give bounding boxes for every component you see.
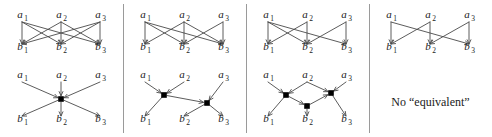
svg-text:a: a (17, 68, 23, 80)
svg-text:3: 3 (225, 14, 229, 23)
svg-text:b: b (95, 112, 101, 124)
svg-text:1: 1 (393, 46, 397, 55)
vertex-label-a1: a1 (386, 8, 397, 23)
svg-text:b: b (140, 40, 146, 52)
vertex-label-b2: b2 (56, 40, 67, 55)
vertex-label-b1: b1 (140, 40, 151, 55)
three-hub-network-canvas: a1b1a2b2a3b3 (246, 68, 369, 137)
complete-bipartite-graph-canvas: a1b1a2b2a3b3 (0, 0, 123, 68)
bipartite-graph-eight-edges-canvas: a1b1a2b2a3b3 (123, 0, 246, 68)
svg-text:3: 3 (348, 118, 352, 127)
svg-text:3: 3 (348, 14, 352, 23)
svg-text:3: 3 (471, 14, 475, 23)
panel-divider-2 (246, 4, 247, 133)
svg-text:2: 2 (432, 46, 436, 55)
svg-text:3: 3 (102, 14, 106, 23)
svg-text:2: 2 (309, 14, 313, 23)
panel-column-2: a1b1a2b2a3b3a1b1a2b2a3b3 (123, 0, 246, 137)
vertex-label-b3: b3 (218, 40, 229, 55)
edge-hub1-b1 (268, 97, 284, 116)
bipartite-graph-six-edges-canvas: a1b1a2b2a3b3 (246, 0, 369, 68)
svg-text:3: 3 (348, 46, 352, 55)
vertex-label-b2: b2 (425, 40, 436, 55)
edge-a3-b2 (430, 22, 469, 44)
vertex-label-b2: b2 (179, 112, 190, 127)
hub-node-3 (328, 90, 334, 96)
edge-a1-hub1 (145, 82, 161, 93)
svg-text:a: a (464, 8, 470, 20)
svg-text:1: 1 (24, 46, 28, 55)
single-hub-network: a1b1a2b2a3b3 (0, 68, 123, 137)
svg-text:b: b (464, 40, 470, 52)
svg-text:a: a (425, 8, 431, 20)
hub-node-2 (204, 100, 210, 106)
svg-text:1: 1 (147, 74, 151, 83)
panel-column-4: a1b1a2b2a3b3No “equivalent” (369, 0, 492, 137)
svg-text:b: b (263, 40, 269, 52)
svg-text:b: b (425, 40, 431, 52)
svg-text:3: 3 (348, 74, 352, 83)
vertex-label-a1: a1 (140, 68, 151, 83)
svg-text:1: 1 (393, 14, 397, 23)
vertex-label-a2: a2 (179, 8, 190, 23)
svg-text:2: 2 (309, 74, 313, 83)
svg-text:2: 2 (309, 118, 313, 127)
single-hub-network-canvas: a1b1a2b2a3b3 (0, 68, 123, 137)
svg-text:a: a (56, 68, 62, 80)
edge-a3-hub3 (334, 82, 346, 91)
edge-a2-b1 (391, 22, 430, 44)
svg-text:b: b (17, 40, 23, 52)
svg-text:1: 1 (270, 14, 274, 23)
vertex-label-b2: b2 (56, 112, 67, 127)
edge-a1-hub1 (268, 82, 283, 93)
svg-text:a: a (218, 8, 224, 20)
figure-root: a1b1a2b2a3b3a1b1a2b2a3b3a1b1a2b2a3b3a1b1… (0, 0, 492, 137)
edge-a2-hub1 (59, 82, 63, 96)
svg-text:b: b (302, 40, 308, 52)
svg-text:1: 1 (147, 118, 151, 127)
svg-text:a: a (17, 8, 23, 20)
vertex-label-b3: b3 (341, 112, 352, 127)
vertex-label-a3: a3 (218, 8, 229, 23)
vertex-label-a3: a3 (341, 68, 352, 83)
hub-node-2 (304, 103, 310, 109)
svg-text:b: b (56, 40, 62, 52)
svg-text:b: b (56, 112, 62, 124)
svg-text:3: 3 (225, 118, 229, 127)
svg-text:2: 2 (63, 14, 67, 23)
vertex-label-b3: b3 (464, 40, 475, 55)
panel-column-3: a1b1a2b2a3b3a1b1a2b2a3b3 (246, 0, 369, 137)
panel-divider-3 (369, 4, 370, 133)
svg-text:2: 2 (63, 118, 67, 127)
svg-text:a: a (386, 8, 392, 20)
svg-text:b: b (386, 40, 392, 52)
hub-link-1-2 (167, 96, 203, 104)
no-equivalent-text: No “equivalent” (391, 95, 469, 110)
vertex-label-a3: a3 (95, 68, 106, 83)
svg-text:3: 3 (102, 118, 106, 127)
vertex-label-b3: b3 (95, 40, 106, 55)
bipartite-graph-six-edges: a1b1a2b2a3b3 (246, 0, 369, 68)
no-equivalent-container: No “equivalent” (369, 68, 492, 137)
two-hub-network: a1b1a2b2a3b3 (123, 68, 246, 137)
edge-a1-hub1 (22, 82, 58, 98)
vertex-label-a2: a2 (56, 8, 67, 23)
svg-text:1: 1 (24, 118, 28, 127)
svg-text:b: b (179, 112, 185, 124)
svg-text:3: 3 (225, 74, 229, 83)
svg-text:2: 2 (309, 46, 313, 55)
svg-text:2: 2 (186, 74, 190, 83)
edge-a3-b2 (307, 22, 346, 44)
svg-text:b: b (95, 40, 101, 52)
complete-bipartite-graph: a1b1a2b2a3b3 (0, 0, 123, 68)
panel-column-1: a1b1a2b2a3b3a1b1a2b2a3b3 (0, 0, 123, 137)
edge-a3-hub1 (64, 82, 100, 98)
hub-link-1-2 (289, 96, 304, 104)
svg-text:a: a (263, 68, 269, 80)
vertex-label-b3: b3 (95, 112, 106, 127)
svg-text:a: a (140, 68, 146, 80)
svg-text:a: a (179, 8, 185, 20)
svg-text:b: b (302, 112, 308, 124)
two-hub-network-canvas: a1b1a2b2a3b3 (123, 68, 246, 137)
svg-text:b: b (17, 112, 23, 124)
